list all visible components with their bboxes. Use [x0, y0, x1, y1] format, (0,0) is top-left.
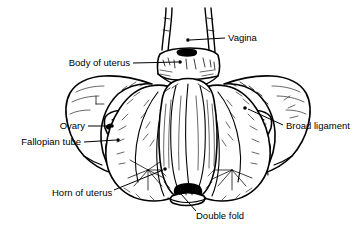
- leader-dot-body-of-uterus: [178, 60, 182, 64]
- leader-dot-double-fold: [178, 191, 182, 195]
- label-vagina: Vagina: [228, 32, 258, 43]
- label-broad-ligament: Broad ligament: [286, 120, 350, 131]
- uterus-body: [159, 79, 217, 201]
- label-fallopian-tube: Fallopian tube: [21, 136, 81, 147]
- label-body-of-uterus: Body of uterus: [69, 57, 131, 68]
- leader-dot-ovary: [110, 124, 114, 128]
- leader-dot-vagina: [186, 38, 190, 42]
- vagina-tubes: [162, 8, 215, 52]
- anatomy-figure: Vagina Body of uterus Ovary Fallopian tu…: [0, 0, 362, 235]
- label-double-fold: Double fold: [196, 210, 244, 221]
- leader-dot-broad-ligament: [243, 106, 247, 110]
- leader-dot-fallopian-tube: [116, 138, 120, 142]
- label-horn-of-uterus: Horn of uterus: [52, 187, 112, 198]
- leader-dot-horn-of-uterus: [163, 167, 167, 171]
- label-ovary: Ovary: [60, 120, 86, 131]
